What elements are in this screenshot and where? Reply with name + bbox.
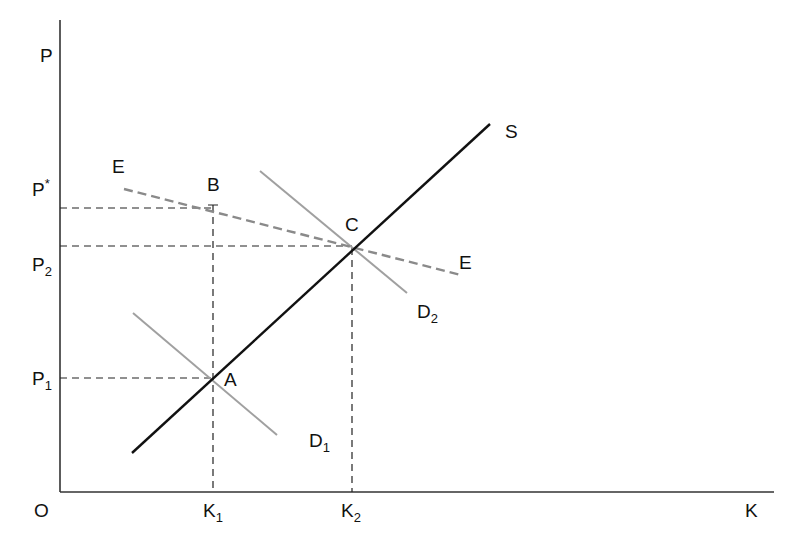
d1-label: D1 [309,430,330,455]
y-axis-label: P [40,45,53,66]
d2-label: D2 [417,301,438,326]
p1-sub: 1 [45,378,52,393]
demand-curve-d1 [133,313,277,435]
k1-sub: 1 [216,510,223,525]
point-c-label: C [345,214,359,235]
point-b-label: B [207,174,220,195]
p2-main: P [32,254,45,275]
p1-main: P [32,368,45,389]
e-right-label: E [459,252,472,273]
demand-curve-d2 [260,171,407,293]
k1-main: K [203,500,216,521]
k2-sub: 2 [354,510,361,525]
supply-demand-diagram: P K O P* P2 P1 K1 K2 S E E D1 D2 A B C [0,0,806,552]
e-left-label: E [112,156,125,177]
s-curve-label: S [505,121,518,142]
p-star-sup: * [45,176,50,191]
p2-label: P2 [32,254,52,279]
p1-label: P1 [32,368,52,393]
p-star-label: P* [32,176,50,200]
k1-label: K1 [203,500,223,525]
p2-sub: 2 [45,264,52,279]
point-a-label: A [224,369,237,390]
d2-main: D [417,301,431,322]
k2-main: K [341,500,354,521]
d1-sub: 1 [323,440,330,455]
origin-label: O [34,500,49,521]
e-curve [124,189,461,275]
supply-curve [132,124,490,453]
d2-sub: 2 [431,311,438,326]
d1-main: D [309,430,323,451]
x-axis-label: K [745,500,758,521]
p-star-main: P [32,179,45,200]
k2-label: K2 [341,500,361,525]
